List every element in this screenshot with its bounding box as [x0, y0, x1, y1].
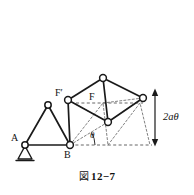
member-b-fprime	[68, 100, 70, 145]
joint-mid	[105, 119, 112, 126]
vertical-post-members	[68, 100, 70, 145]
joint-right	[140, 95, 147, 102]
label-force-f-prime: F′	[55, 88, 63, 98]
joint-top-apex	[100, 75, 107, 82]
figure-caption: 図12−7	[0, 168, 194, 183]
construction-triangle-right	[108, 103, 150, 145]
construction-triangle-left	[70, 103, 108, 145]
label-point-b: B	[64, 150, 71, 160]
rhombus-members	[68, 78, 143, 122]
joint-apex-left	[45, 102, 51, 108]
joint-a	[22, 142, 28, 148]
member-a-apexL	[25, 105, 48, 145]
dimension-arrow-head-top	[152, 89, 158, 97]
label-angle-theta: θ	[90, 131, 94, 140]
figure-12-7-container: A B F′ F θ 2aθ 図12−7	[0, 0, 194, 195]
label-force-f: F	[89, 92, 95, 102]
caption-figure-mark: 図	[79, 171, 89, 182]
label-point-a: A	[11, 133, 18, 143]
left-triangle-members	[25, 105, 70, 145]
member-apexL-b	[48, 105, 70, 145]
construction-line-b-mid	[70, 122, 108, 145]
label-dimension-2a-theta: 2aθ	[163, 112, 179, 123]
joint-f-prime	[65, 97, 72, 104]
truss-mechanism-diagram	[0, 0, 194, 195]
member-top-mid-vertical	[103, 78, 108, 122]
joint-circles-group	[22, 75, 147, 149]
dimension-arrow-head-bottom	[152, 139, 158, 147]
double-headed-arrow-icon	[152, 89, 158, 147]
member-top-right	[103, 78, 143, 98]
joint-b	[67, 142, 74, 149]
member-fprime-top	[68, 78, 103, 100]
caption-figure-number: 12−7	[91, 170, 115, 182]
